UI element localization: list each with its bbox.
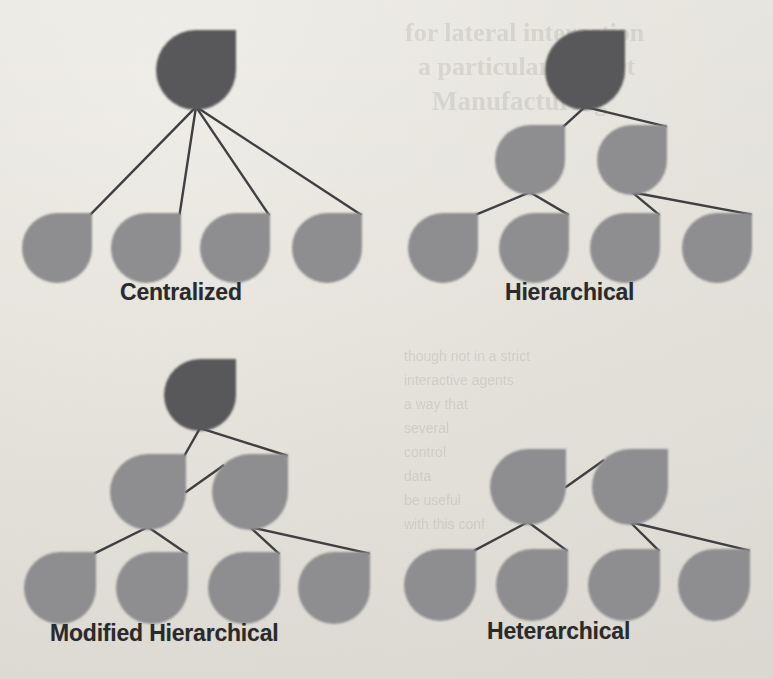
edge-x-m2-to-x-l4 xyxy=(630,522,749,550)
node-h-m1-light xyxy=(495,125,565,195)
edge-m-m1-to-m-l1 xyxy=(95,527,148,553)
edge-h-m1-to-h-l1 xyxy=(477,192,530,214)
node-h-l3-light xyxy=(590,213,660,283)
node-m-l4-light xyxy=(298,552,370,624)
edge-c-root-to-c-l4 xyxy=(196,107,361,215)
node-x-l4-light xyxy=(678,549,750,621)
edge-m-root-to-m-m1 xyxy=(185,428,201,455)
edge-m-root-to-m-m2 xyxy=(200,428,287,455)
edge-m-m2-to-m-l4 xyxy=(250,527,369,553)
node-h-root-dark xyxy=(545,30,625,110)
node-h-l2-light xyxy=(499,213,569,283)
edge-c-root-to-c-l1 xyxy=(91,107,196,215)
node-h-m2-light xyxy=(597,125,667,195)
edge-h-m1-to-h-l2 xyxy=(530,192,568,214)
node-x-l2-light xyxy=(496,549,568,621)
node-h-l4-light xyxy=(682,213,752,283)
node-m-l2-light xyxy=(116,552,188,624)
topology-diagram xyxy=(0,0,773,679)
node-m-m1-light xyxy=(110,454,186,530)
node-c-root-dark xyxy=(156,30,236,110)
node-m-root-dark xyxy=(164,359,236,431)
quadrant-label-hierarchical: Hierarchical xyxy=(505,279,634,306)
quadrant-label-modified-hierarchical: Modified Hierarchical xyxy=(50,620,278,647)
node-x-l3-light xyxy=(588,549,660,621)
node-h-l1-light xyxy=(408,213,478,283)
node-m-l3-light xyxy=(208,552,280,624)
edge-h-m2-to-h-l4 xyxy=(632,192,751,214)
node-c-l2-light xyxy=(111,213,181,283)
edge-m-m1-to-m-l2 xyxy=(148,527,187,553)
quadrant-label-centralized: Centralized xyxy=(120,279,242,306)
edge-x-m1-to-x-l2 xyxy=(528,522,567,550)
edge-h-root-to-h-m2 xyxy=(585,107,666,127)
node-c-l3-light xyxy=(200,213,270,283)
node-x-l1-light xyxy=(404,549,476,621)
node-x-m1-light xyxy=(490,449,566,525)
edge-x-m1-to-x-l1 xyxy=(475,522,528,550)
node-c-l4-light xyxy=(292,213,362,283)
diagram-stage: Centralized Hierarchical Modified Hierar… xyxy=(0,0,773,679)
edge-c-root-to-c-l3 xyxy=(196,107,269,215)
node-c-l1-light xyxy=(22,213,92,283)
node-m-m2-light xyxy=(212,454,288,530)
node-m-l1-light xyxy=(24,552,96,624)
quadrant-label-heterarchical: Heterarchical xyxy=(487,618,630,645)
node-x-m2-light xyxy=(592,449,668,525)
edge-c-root-to-c-l2 xyxy=(180,107,196,215)
